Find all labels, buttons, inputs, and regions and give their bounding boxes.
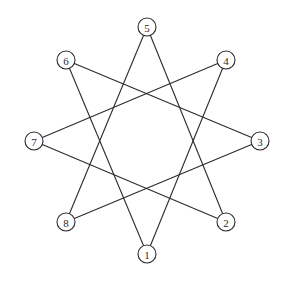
node-6: 6 — [57, 51, 75, 69]
node-label: 2 — [223, 217, 229, 229]
edge-4-7 — [34, 60, 226, 141]
node-label: 8 — [63, 217, 69, 229]
node-1: 1 — [138, 245, 156, 263]
node-label: 5 — [144, 22, 150, 34]
node-4: 4 — [217, 51, 235, 69]
node-7: 7 — [25, 132, 43, 150]
star-graph-diagram: 12345678 — [0, 0, 285, 290]
node-label: 7 — [31, 136, 37, 148]
node-label: 3 — [257, 136, 263, 148]
node-label: 6 — [63, 55, 69, 67]
node-5: 5 — [138, 18, 156, 36]
nodes-group: 12345678 — [25, 18, 269, 263]
node-8: 8 — [57, 213, 75, 231]
edge-1-4 — [147, 60, 226, 254]
node-label: 4 — [223, 55, 229, 67]
node-2: 2 — [217, 213, 235, 231]
edge-2-5 — [147, 27, 226, 222]
node-label: 1 — [144, 249, 150, 261]
edge-7-2 — [34, 141, 226, 222]
node-3: 3 — [251, 132, 269, 150]
